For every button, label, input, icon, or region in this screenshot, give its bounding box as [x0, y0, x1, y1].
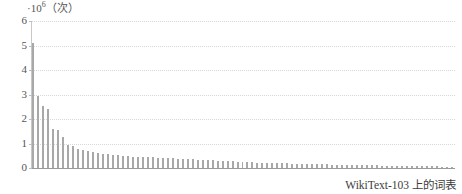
x-axis-line	[31, 168, 455, 169]
y-axis-tick-label: 1	[5, 138, 27, 149]
bar	[87, 151, 89, 168]
bar	[52, 129, 54, 168]
bar	[227, 161, 229, 168]
bar	[246, 162, 248, 168]
frequency-bar-chart-figure: ·106（次） 0123456 WikiText-103 上的词表	[0, 0, 462, 194]
bar	[406, 166, 408, 168]
y-axis-tick-label: 0	[5, 162, 27, 173]
bar	[371, 165, 373, 168]
bar	[37, 96, 39, 168]
y-axis-tick-label: 3	[5, 89, 27, 100]
bar	[132, 157, 134, 169]
bar	[301, 164, 303, 168]
bar	[62, 137, 64, 168]
bar	[261, 163, 263, 168]
bar	[391, 166, 393, 168]
bar	[441, 167, 443, 168]
bar	[351, 165, 353, 168]
bar	[82, 150, 84, 168]
bar	[376, 165, 378, 168]
bar	[142, 157, 144, 168]
bar	[291, 164, 293, 168]
bar	[72, 146, 74, 168]
y-axis-tick-label: 5	[5, 40, 27, 51]
bar	[197, 160, 199, 168]
bar-series	[31, 21, 455, 168]
bar	[321, 164, 323, 168]
bar	[32, 43, 34, 168]
y-axis-tick-mark	[29, 46, 32, 47]
bar	[426, 166, 428, 168]
bar	[207, 160, 209, 168]
bar	[137, 157, 139, 168]
bar	[306, 164, 308, 168]
bar	[47, 109, 49, 168]
bar	[147, 157, 149, 168]
y-axis-tick-mark	[29, 168, 32, 169]
bar	[251, 162, 253, 168]
bar	[266, 163, 268, 168]
bar	[67, 145, 69, 168]
bar	[281, 163, 283, 168]
bar	[107, 154, 109, 168]
bar	[276, 163, 278, 168]
figure-caption: WikiText-103 上的词表	[345, 178, 456, 192]
bar	[326, 164, 328, 168]
bar	[341, 165, 343, 168]
bar	[237, 162, 239, 168]
bar	[242, 162, 244, 168]
y-axis-exponent-prefix: ·10	[27, 2, 42, 14]
bar	[346, 165, 348, 168]
bar	[336, 165, 338, 168]
bar	[411, 166, 413, 168]
y-axis-tick-mark	[29, 119, 32, 120]
bar	[232, 161, 234, 168]
y-axis-exponent-label: ·106（次）	[27, 1, 79, 15]
bar	[331, 165, 333, 168]
bar	[436, 166, 438, 168]
y-axis-tick-mark	[29, 70, 32, 71]
bar	[117, 155, 119, 168]
bar	[202, 160, 204, 168]
bar	[311, 164, 313, 168]
bar	[401, 166, 403, 168]
bar	[396, 166, 398, 168]
bar	[451, 167, 453, 168]
bar	[361, 165, 363, 168]
bar	[366, 165, 368, 168]
bar	[421, 166, 423, 168]
bar	[42, 106, 44, 168]
bar	[316, 164, 318, 168]
bar	[102, 154, 104, 168]
bar	[172, 158, 174, 168]
bar	[381, 166, 383, 168]
y-axis-tick-label-group: 0123456	[0, 0, 27, 194]
bar	[212, 160, 214, 168]
y-axis-tick-label: 2	[5, 113, 27, 124]
bar	[416, 166, 418, 168]
bar	[122, 156, 124, 168]
y-axis-tick-mark	[29, 95, 32, 96]
bar	[92, 152, 94, 168]
y-axis-tick-mark	[29, 144, 32, 145]
bar	[157, 158, 159, 168]
bar	[222, 161, 224, 168]
bar	[97, 153, 99, 168]
bar	[446, 167, 448, 168]
bar	[431, 166, 433, 168]
bar	[57, 130, 59, 168]
y-axis-unit-label: （次）	[46, 2, 79, 14]
bar	[112, 155, 114, 168]
bar	[77, 149, 79, 168]
y-axis-tick-mark	[29, 21, 32, 22]
y-axis-tick-label: 6	[5, 15, 27, 26]
bar	[177, 159, 179, 168]
y-axis-tick-label: 4	[5, 64, 27, 75]
bar	[296, 164, 298, 168]
bar	[167, 158, 169, 168]
bar	[217, 161, 219, 168]
bar	[152, 157, 154, 168]
bar	[127, 156, 129, 168]
bar	[386, 166, 388, 168]
bar	[182, 159, 184, 168]
